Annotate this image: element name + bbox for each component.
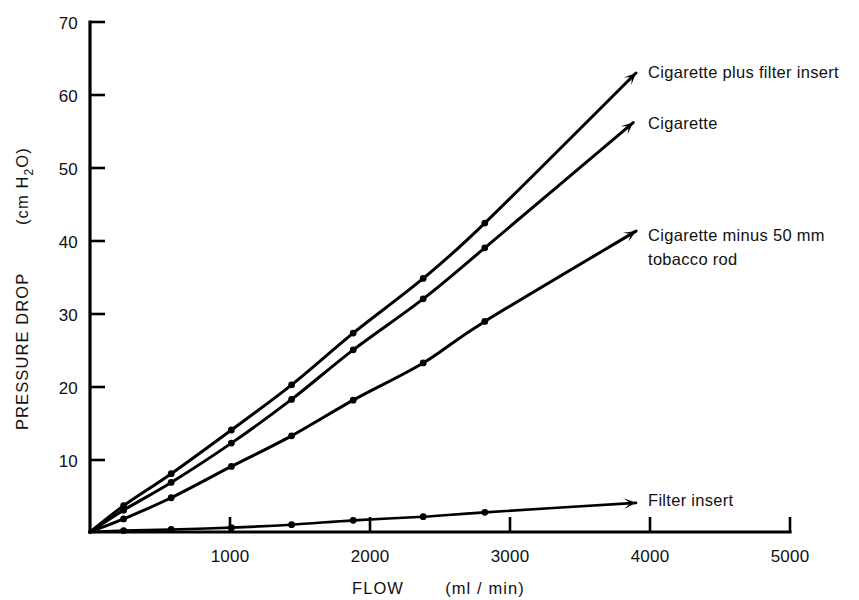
x-tick-label-4000: 4000 bbox=[631, 547, 670, 566]
data-point-marker bbox=[420, 295, 427, 302]
data-point-marker bbox=[120, 507, 127, 514]
y-tick-label-20: 20 bbox=[59, 379, 78, 398]
y-tick-label-60: 60 bbox=[59, 87, 78, 106]
data-point-marker bbox=[350, 517, 357, 524]
y-axis-tick-labels: 70 60 50 40 30 20 10 bbox=[59, 14, 78, 471]
y-tick-label-40: 40 bbox=[59, 233, 78, 252]
series-label-cigarette-minus-rod-line1: Cigarette minus 50 mm bbox=[648, 226, 825, 244]
y-tick-label-50: 50 bbox=[59, 160, 78, 179]
y-unit-tail: O) bbox=[13, 147, 31, 168]
y-tick-label-10: 10 bbox=[59, 452, 78, 471]
series-label-filter-insert: Filter insert bbox=[648, 491, 734, 509]
series-line-cigarette-minus-tobacco-rod bbox=[90, 231, 636, 532]
x-tick-label-2000: 2000 bbox=[351, 547, 390, 566]
data-point-marker bbox=[481, 244, 488, 251]
data-point-marker bbox=[228, 524, 235, 531]
series-curves bbox=[90, 73, 636, 532]
data-point-marker bbox=[288, 381, 295, 388]
data-point-marker bbox=[228, 463, 235, 470]
x-axis-tick-labels: 1000 2000 3000 4000 5000 bbox=[211, 547, 810, 566]
series-annotations: Cigarette plus filter insert Cigarette C… bbox=[648, 63, 839, 509]
y-axis-ticks bbox=[90, 22, 105, 460]
series-label-cigarette-plus-filter-insert: Cigarette plus filter insert bbox=[648, 63, 839, 81]
x-tick-label-1000: 1000 bbox=[211, 547, 250, 566]
data-point-marker bbox=[168, 526, 175, 533]
data-point-marker bbox=[168, 470, 175, 477]
data-point-marker bbox=[350, 397, 357, 404]
x-axis-title-unit: (ml / min) bbox=[445, 579, 525, 597]
x-axis-title: FLOW (ml / min) bbox=[352, 579, 525, 597]
data-point-marker bbox=[420, 513, 427, 520]
data-point-marker bbox=[481, 220, 488, 227]
data-point-marker bbox=[350, 330, 357, 337]
series-label-cigarette: Cigarette bbox=[648, 114, 718, 132]
series-line-cigarette-plus-filter-insert bbox=[90, 73, 636, 532]
data-point-marker bbox=[288, 521, 295, 528]
series-end-arrows bbox=[621, 73, 636, 509]
x-tick-label-3000: 3000 bbox=[491, 547, 530, 566]
y-tick-label-70: 70 bbox=[59, 14, 78, 33]
data-point-marker bbox=[228, 427, 235, 434]
series-label-cigarette-minus-rod-line2: tobacco rod bbox=[648, 250, 738, 268]
data-point-marker bbox=[168, 479, 175, 486]
data-point-marker bbox=[120, 515, 127, 522]
y-axis-title: PRESSURE DROP (cm H2O) bbox=[13, 147, 36, 430]
data-point-marker bbox=[481, 509, 488, 516]
data-point-marker bbox=[420, 360, 427, 367]
x-axis-title-main: FLOW bbox=[352, 579, 404, 597]
data-point-marker bbox=[168, 494, 175, 501]
pressure-drop-flow-chart: 70 60 50 40 30 20 10 1000 2000 3000 4000… bbox=[0, 0, 859, 600]
y-axis-title-unit: (cm H2O) bbox=[13, 147, 36, 225]
y-tick-label-30: 30 bbox=[59, 306, 78, 325]
y-axis-title-main: PRESSURE DROP bbox=[13, 273, 31, 430]
y-unit-open: (cm H bbox=[13, 176, 31, 226]
data-point-marker bbox=[120, 527, 127, 534]
data-point-marker bbox=[420, 275, 427, 282]
data-point-marker bbox=[228, 440, 235, 447]
x-axis-ticks bbox=[230, 517, 790, 532]
data-point-marker bbox=[288, 432, 295, 439]
data-point-marker bbox=[288, 396, 295, 403]
data-point-marker bbox=[481, 318, 488, 325]
chart-svg: 70 60 50 40 30 20 10 1000 2000 3000 4000… bbox=[0, 0, 859, 600]
x-tick-label-5000: 5000 bbox=[771, 547, 810, 566]
series-data-markers bbox=[120, 220, 488, 534]
data-point-marker bbox=[350, 346, 357, 353]
y-unit-subscript: 2 bbox=[22, 168, 36, 176]
